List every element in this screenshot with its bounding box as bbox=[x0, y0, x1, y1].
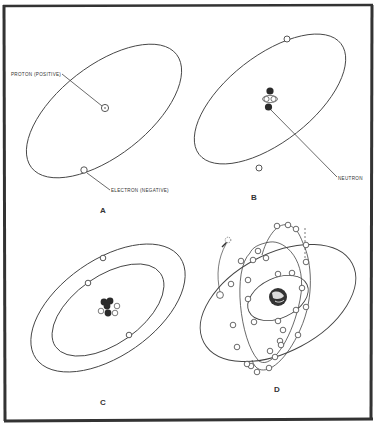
neutron-label: NEUTRON bbox=[338, 176, 363, 181]
panel-letter-d: D bbox=[274, 385, 280, 394]
panel-d-complex-atom: D bbox=[181, 220, 375, 394]
proton-icon bbox=[101, 104, 108, 111]
nucleus-icon bbox=[269, 288, 287, 306]
neutron-icon bbox=[265, 103, 272, 110]
atom-diagram-figure: PROTON (POSITIVE) ELECTRON (NEGATIVE) A … bbox=[0, 0, 377, 428]
panel-letter-b: B bbox=[251, 193, 257, 202]
electron-icon bbox=[284, 36, 290, 42]
panel-b-helium: NEUTRON B bbox=[173, 10, 368, 202]
electrons-group bbox=[217, 222, 309, 375]
electron-label: ELECTRON (NEGATIVE) bbox=[111, 188, 169, 193]
proton-icon bbox=[271, 96, 276, 101]
electron-icon bbox=[100, 255, 106, 261]
nucleus-icon bbox=[263, 87, 278, 110]
neutron-icon bbox=[266, 87, 273, 94]
electron-leader-line bbox=[87, 173, 110, 190]
proton-leader-line bbox=[62, 74, 102, 106]
electron-icon bbox=[256, 165, 262, 171]
panel-letter-c: C bbox=[100, 398, 106, 407]
electron-icon bbox=[81, 167, 87, 173]
panel-letter-a: A bbox=[100, 206, 106, 215]
nucleus-icon bbox=[98, 298, 120, 317]
escaping-electron-path bbox=[218, 244, 226, 292]
escaping-electron-icon bbox=[225, 237, 231, 243]
electron-icon bbox=[126, 332, 132, 338]
electron-icon bbox=[85, 280, 91, 286]
proton-label: PROTON (POSITIVE) bbox=[11, 72, 61, 77]
proton-icon bbox=[264, 96, 269, 101]
panel-c-lithium: C bbox=[8, 218, 207, 407]
figure-frame bbox=[3, 5, 373, 421]
panel-a-hydrogen: PROTON (POSITIVE) ELECTRON (NEGATIVE) A bbox=[4, 19, 204, 215]
